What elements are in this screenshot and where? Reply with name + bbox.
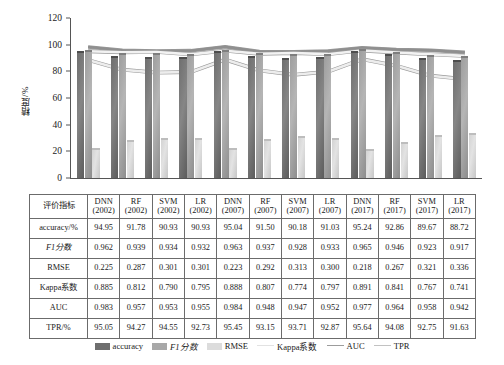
bar-cap (111, 56, 118, 58)
y-tick-label: 20 (53, 146, 63, 156)
legend-label: RMSE (225, 341, 248, 351)
table-cell: 95.64 (346, 319, 378, 339)
bar-cap (77, 51, 84, 53)
table-col-header: RF(2017) (378, 195, 410, 219)
bar-rmse (401, 142, 408, 178)
bar-group (448, 18, 482, 178)
table-cell: 0.965 (346, 239, 378, 259)
table-cell: 0.774 (281, 279, 313, 299)
table-col-header: SVM(2017) (411, 195, 443, 219)
bar-f1 (119, 53, 126, 178)
bar-cap (179, 57, 186, 59)
bar-accuracy (214, 51, 221, 178)
table-cell: 95.24 (346, 219, 378, 239)
table-cell: 94.27 (120, 319, 152, 339)
bar-cap (187, 54, 194, 56)
table-cell: 0.807 (249, 279, 281, 299)
table-cell: 0.267 (378, 259, 410, 279)
bar-f1 (256, 53, 263, 178)
table-col-header: DNN(2007) (217, 195, 249, 219)
table-cell: 0.942 (443, 299, 475, 319)
bar-accuracy (111, 56, 118, 178)
table-cell: 0.977 (346, 299, 378, 319)
bar-group (242, 18, 276, 178)
table-row-label: RMSE (30, 259, 88, 279)
bar-group (345, 18, 379, 178)
bar-f1 (393, 52, 400, 178)
bar-group (414, 18, 448, 178)
col-header-year: (2007) (250, 207, 281, 216)
bar-rmse (195, 138, 202, 178)
table-corner-label: 评价指标 (30, 195, 88, 219)
col-header-year: (2007) (217, 207, 248, 216)
table-cell: 0.225 (88, 259, 120, 279)
y-tick-label: 60 (53, 93, 63, 103)
bar-cap (85, 50, 92, 52)
bar-cap (222, 50, 229, 52)
bar-cap (324, 54, 331, 56)
table-col-header: RF(2002) (120, 195, 152, 219)
table-cell: 0.932 (184, 239, 216, 259)
bar-f1 (427, 55, 434, 178)
legend-swatch-line (257, 345, 274, 346)
table-cell: 0.321 (411, 259, 443, 279)
table-cell: 0.223 (217, 259, 249, 279)
bar-group (208, 18, 242, 178)
col-header-year: (2002) (88, 207, 119, 216)
table-cell: 0.955 (184, 299, 216, 319)
table-col-header: LR(2017) (443, 195, 475, 219)
bar-group (277, 18, 311, 178)
table-cell: 0.812 (120, 279, 152, 299)
bar-rmse (469, 133, 476, 178)
bar-cap (435, 135, 442, 137)
col-header-year: (2017) (411, 207, 442, 216)
legend-item: TPR (374, 341, 410, 351)
bar-rmse (127, 140, 134, 178)
legend-item: F1分数 (152, 340, 198, 352)
legend-swatch-bar (152, 343, 167, 350)
table-cell: 0.313 (281, 259, 313, 279)
bar-cap (153, 53, 160, 55)
table-row: accuracy/%94.9591.7890.9390.9395.0491.50… (30, 219, 476, 239)
table-cell: 0.928 (281, 239, 313, 259)
plot-area: 精度/% 020406080100120 (0, 4, 504, 196)
table-row: F1分数0.9620.9390.9340.9320.9630.9370.9280… (30, 239, 476, 259)
legend-swatch-bar (95, 343, 110, 350)
bar-cap (195, 138, 202, 140)
legend-item: accuracy (95, 341, 144, 351)
bar-rmse (332, 138, 339, 178)
plot-canvas (71, 18, 482, 178)
table-cell: 0.888 (217, 279, 249, 299)
y-axis-label: 精度/% (18, 86, 31, 116)
table-cell: 90.18 (281, 219, 313, 239)
table-row: TPR/%95.0594.2794.5592.7395.4593.1593.71… (30, 319, 476, 339)
table-col-header: SVM(2002) (152, 195, 184, 219)
col-header-year: (2002) (153, 207, 184, 216)
bar-cap (469, 133, 476, 135)
table-cell: 91.50 (249, 219, 281, 239)
table-cell: 0.300 (314, 259, 346, 279)
table-cell: 0.964 (378, 299, 410, 319)
bar-rmse (298, 136, 305, 178)
bar-cap (393, 52, 400, 54)
table-cell: 0.952 (314, 299, 346, 319)
table-col-header: LR(2002) (184, 195, 216, 219)
table-row-label: accuracy/% (30, 219, 88, 239)
bar-cap (419, 58, 426, 60)
bar-cap (385, 54, 392, 56)
bar-rmse (92, 148, 99, 178)
col-header-year: (2007) (314, 207, 345, 216)
table-col-header: SVM(2007) (281, 195, 313, 219)
y-tick-label: 120 (48, 13, 62, 23)
table-cell: 0.958 (411, 299, 443, 319)
table-cell: 0.937 (249, 239, 281, 259)
bar-f1 (359, 49, 366, 178)
table-cell: 92.73 (184, 319, 216, 339)
table-cell: 95.45 (217, 319, 249, 339)
bar-cap (248, 56, 255, 58)
bar-group (379, 18, 413, 178)
table-cell: 90.93 (184, 219, 216, 239)
table-cell: 92.75 (411, 319, 443, 339)
bar-rmse (229, 148, 236, 178)
bar-f1 (461, 56, 468, 178)
